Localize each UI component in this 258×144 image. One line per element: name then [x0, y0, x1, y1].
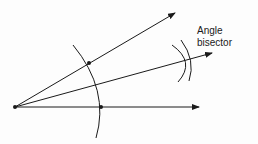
diagram-svg [0, 0, 258, 144]
label-line-1: Angle [197, 25, 232, 37]
label-line-2: bisector [197, 37, 232, 49]
upper-ray [15, 13, 175, 107]
upper-intersection-point [87, 61, 91, 65]
bisector-ray [15, 53, 212, 107]
angle-bisector-label: Angle bisector [197, 25, 232, 49]
angle-bisector-diagram: Angle bisector [0, 0, 258, 144]
vertex-point [13, 105, 17, 109]
lower-intersection-point [99, 105, 103, 109]
